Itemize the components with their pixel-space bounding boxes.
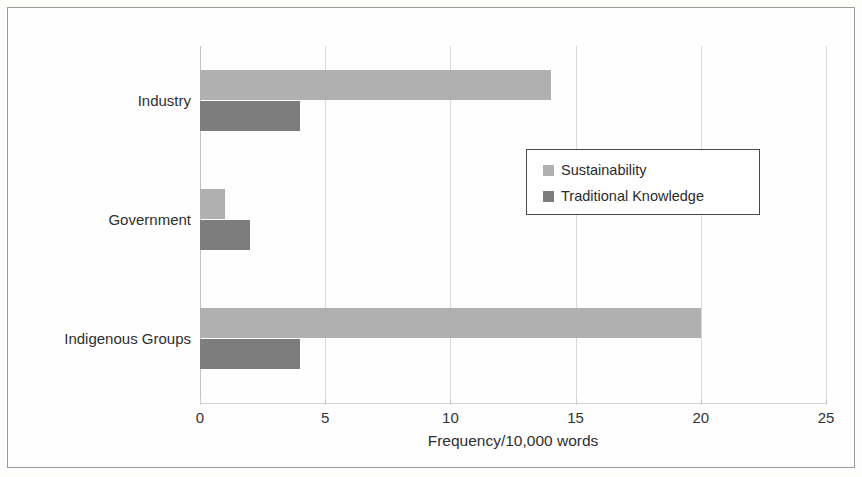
bar bbox=[200, 70, 551, 100]
tick-mark bbox=[450, 398, 451, 405]
category-label: Indigenous Groups bbox=[11, 330, 191, 347]
x-tick-label: 25 bbox=[818, 409, 835, 426]
bar bbox=[200, 101, 300, 131]
bar bbox=[200, 220, 250, 250]
legend-swatch-sustainability bbox=[543, 165, 554, 176]
x-axis-title: Frequency/10,000 words bbox=[200, 432, 826, 450]
chart-legend: Sustainability Traditional Knowledge bbox=[526, 149, 760, 215]
bar-group bbox=[200, 308, 826, 369]
category-label: Industry bbox=[11, 92, 191, 109]
legend-swatch-traditional-knowledge bbox=[543, 191, 554, 202]
legend-item-sustainability: Sustainability bbox=[543, 157, 759, 183]
x-tick-label: 5 bbox=[321, 409, 329, 426]
page-background: IndustryGovernmentIndigenous Groups 0510… bbox=[0, 0, 862, 477]
legend-label-sustainability: Sustainability bbox=[561, 162, 646, 178]
legend-label-traditional-knowledge: Traditional Knowledge bbox=[561, 188, 704, 204]
x-tick-label: 0 bbox=[196, 409, 204, 426]
bar bbox=[200, 189, 225, 219]
legend-item-traditional-knowledge: Traditional Knowledge bbox=[543, 183, 759, 209]
category-axis-labels: IndustryGovernmentIndigenous Groups bbox=[8, 46, 191, 403]
bar bbox=[200, 339, 300, 369]
tick-mark bbox=[200, 398, 201, 405]
bar-group bbox=[200, 70, 826, 131]
figure-frame: IndustryGovernmentIndigenous Groups 0510… bbox=[7, 7, 855, 468]
x-tick-label: 20 bbox=[692, 409, 709, 426]
bar bbox=[200, 308, 701, 338]
x-tick-label: 15 bbox=[567, 409, 584, 426]
tick-mark bbox=[325, 398, 326, 405]
x-axis-baseline bbox=[200, 403, 826, 404]
gridline-25 bbox=[826, 46, 827, 403]
x-axis-ticks: 0510152025 bbox=[200, 406, 826, 430]
tick-mark bbox=[826, 398, 827, 405]
plot-area bbox=[200, 46, 826, 403]
x-tick-label: 10 bbox=[442, 409, 459, 426]
tick-mark bbox=[701, 398, 702, 405]
category-label: Government bbox=[11, 211, 191, 228]
tick-mark bbox=[576, 398, 577, 405]
